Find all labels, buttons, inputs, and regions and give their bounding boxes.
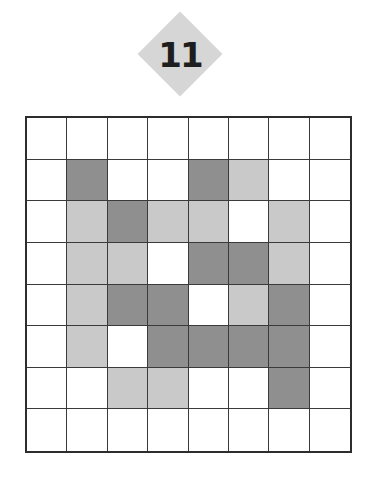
grid-cell[interactable]	[310, 368, 350, 410]
grid-cell[interactable]	[148, 243, 188, 285]
grid-cell[interactable]	[67, 201, 107, 243]
grid-cell[interactable]	[148, 326, 188, 368]
grid-cell[interactable]	[108, 160, 148, 202]
grid-cell[interactable]	[27, 326, 67, 368]
grid-cell[interactable]	[229, 160, 269, 202]
grid-cell[interactable]	[189, 409, 229, 451]
grid-cell[interactable]	[229, 409, 269, 451]
grid-cell[interactable]	[67, 243, 107, 285]
grid-cell[interactable]	[148, 118, 188, 160]
grid-cell[interactable]	[229, 326, 269, 368]
grid-cell[interactable]	[27, 201, 67, 243]
grid-cell[interactable]	[27, 285, 67, 327]
grid-cell[interactable]	[229, 285, 269, 327]
puzzle-grid	[25, 116, 352, 453]
grid-cell[interactable]	[27, 160, 67, 202]
grid-cell[interactable]	[269, 201, 309, 243]
grid-cell[interactable]	[148, 201, 188, 243]
grid-cell[interactable]	[27, 368, 67, 410]
puzzle-number: 11	[140, 30, 220, 80]
grid-cell[interactable]	[229, 243, 269, 285]
grid-cell[interactable]	[108, 409, 148, 451]
grid-cell[interactable]	[108, 118, 148, 160]
grid-cell[interactable]	[67, 118, 107, 160]
grid-cell[interactable]	[108, 201, 148, 243]
grid-cell[interactable]	[189, 326, 229, 368]
grid-cell[interactable]	[148, 160, 188, 202]
grid-cell[interactable]	[310, 118, 350, 160]
grid-cell[interactable]	[189, 201, 229, 243]
grid-cell[interactable]	[189, 368, 229, 410]
grid-cell[interactable]	[189, 160, 229, 202]
grid-cell[interactable]	[269, 118, 309, 160]
grid-cell[interactable]	[148, 285, 188, 327]
grid-cell[interactable]	[108, 285, 148, 327]
grid-cell[interactable]	[27, 243, 67, 285]
grid-cell[interactable]	[269, 368, 309, 410]
grid-cell[interactable]	[27, 409, 67, 451]
grid-cell[interactable]	[229, 201, 269, 243]
grid-cell[interactable]	[229, 118, 269, 160]
grid-cell[interactable]	[67, 160, 107, 202]
grid-cell[interactable]	[108, 326, 148, 368]
grid-cell[interactable]	[269, 409, 309, 451]
grid-cell[interactable]	[189, 243, 229, 285]
grid-cell[interactable]	[229, 368, 269, 410]
grid-cell[interactable]	[269, 285, 309, 327]
grid-cell[interactable]	[310, 285, 350, 327]
grid-cell[interactable]	[67, 409, 107, 451]
grid-cell[interactable]	[310, 201, 350, 243]
grid-cell[interactable]	[67, 285, 107, 327]
grid-cell[interactable]	[310, 326, 350, 368]
grid-cell[interactable]	[108, 243, 148, 285]
grid-cell[interactable]	[310, 243, 350, 285]
grid-cell[interactable]	[310, 409, 350, 451]
grid-cell[interactable]	[27, 118, 67, 160]
grid-cell[interactable]	[189, 118, 229, 160]
grid-cell[interactable]	[269, 243, 309, 285]
grid-cell[interactable]	[148, 368, 188, 410]
grid-cell[interactable]	[67, 368, 107, 410]
grid-cell[interactable]	[108, 368, 148, 410]
grid-cell[interactable]	[67, 326, 107, 368]
grid-cell[interactable]	[269, 326, 309, 368]
grid-cell[interactable]	[269, 160, 309, 202]
grid-cell[interactable]	[310, 160, 350, 202]
grid-cell[interactable]	[148, 409, 188, 451]
grid-cell[interactable]	[189, 285, 229, 327]
